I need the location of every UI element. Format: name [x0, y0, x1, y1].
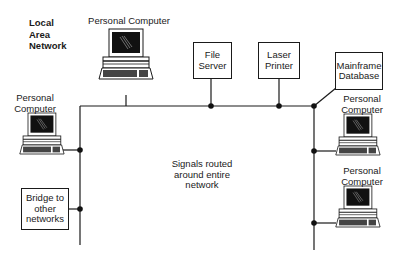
- pc-top-icon: [99, 29, 153, 79]
- mainframe-database-box: Mainframe Database: [335, 52, 383, 90]
- pc-right-1-label-line-1: Personal: [334, 94, 390, 105]
- bridge-label-line-3: networks: [26, 214, 64, 225]
- pc-left-label-line-2: Computer: [10, 104, 60, 115]
- pc-right-2-label-line-1: Personal: [334, 166, 390, 177]
- file-server-box: File Server: [193, 42, 232, 79]
- mainframe-label-line-2: Database: [337, 71, 382, 82]
- pc-top-label: Personal Computer: [82, 16, 176, 27]
- pc-right-1-label: Personal Computer: [334, 94, 390, 115]
- pc-right-1-label-line-2: Computer: [334, 105, 390, 116]
- pc-right-1-icon: [336, 114, 380, 155]
- signals-note-line-1: Signals routed: [160, 159, 244, 170]
- signals-note: Signals routed around entire network: [160, 159, 244, 191]
- file-server-label-line-2: Server: [199, 61, 227, 72]
- pc-right-2-label: Personal Computer: [334, 166, 390, 187]
- bridge-box: Bridge to other networks: [21, 188, 69, 230]
- pc-left-icon: [20, 113, 64, 154]
- pc-left-label-line-1: Personal: [10, 93, 60, 104]
- pc-right-2-label-line-2: Computer: [334, 177, 390, 188]
- signals-note-line-3: network: [160, 180, 244, 191]
- laser-printer-label-line-1: Laser: [265, 50, 293, 61]
- pc-right-2-icon: [336, 186, 380, 227]
- laser-printer-box: Laser Printer: [258, 42, 300, 79]
- laser-printer-label-line-2: Printer: [265, 61, 293, 72]
- pc-left-label: Personal Computer: [10, 93, 60, 114]
- file-server-label-line-1: File: [199, 50, 227, 61]
